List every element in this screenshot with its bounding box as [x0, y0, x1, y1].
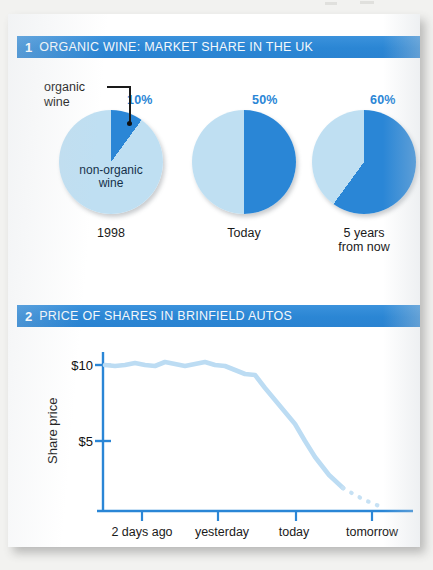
panel-title-1: ORGANIC WINE: MARKET SHARE IN THE UK: [39, 41, 313, 54]
share-price-line-solid: [105, 362, 343, 488]
share-price-line-forecast: [343, 488, 379, 506]
pie-value-label-1998: 10%: [127, 93, 153, 107]
x-tick-label-tomorrow: tomorrow: [324, 525, 420, 539]
pie-caption-today: Today: [194, 226, 294, 240]
pie-slices-5-years: [312, 110, 416, 214]
scan-artifact: [325, 2, 337, 5]
panel-header-2: 2 PRICE OF SHARES IN BRINFIELD AUTOS: [17, 305, 420, 327]
pie-value-label-today: 50%: [252, 93, 278, 107]
callout-leader-vertical: [129, 86, 131, 124]
pie-value-label-5-years: 60%: [370, 93, 396, 107]
callout-leader-horizontal: [107, 86, 131, 88]
panel-number-1: 1: [25, 41, 32, 54]
infographic-page: 1 ORGANIC WINE: MARKET SHARE IN THE UK 1…: [0, 0, 433, 570]
x-tick-label-today: today: [254, 525, 334, 539]
pie-slices-today: [192, 110, 296, 214]
panel-number-2: 2: [25, 310, 32, 323]
pie-inside-label-non-organic: non-organic wine: [62, 164, 160, 190]
infographic-card: 1 ORGANIC WINE: MARKET SHARE IN THE UK 1…: [8, 14, 420, 547]
line-chart-share-price: Share price $10 $5: [17, 329, 420, 561]
scan-artifact: [360, 1, 374, 4]
pie-slices-1998: [59, 110, 163, 214]
pie-caption-5-years: 5 years from now: [314, 226, 414, 254]
panel-title-2: PRICE OF SHARES IN BRINFIELD AUTOS: [39, 310, 292, 323]
panel-header-1: 1 ORGANIC WINE: MARKET SHARE IN THE UK: [17, 36, 420, 58]
callout-organic-wine-label: organic wine: [44, 80, 114, 110]
callout-anchor-dot: [127, 121, 132, 126]
line-chart-plot: [17, 329, 420, 529]
pie-caption-1998: 1998: [61, 226, 161, 240]
